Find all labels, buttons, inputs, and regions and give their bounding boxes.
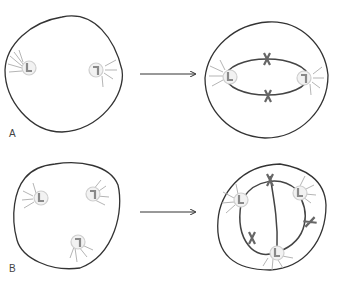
panel-b-cell-after <box>218 164 326 270</box>
centrosome-icon <box>22 61 36 75</box>
mitosis-diagram <box>0 0 341 290</box>
panel-a-cell-before <box>5 16 122 132</box>
centrosome-icon <box>34 191 48 205</box>
chromosome-icon <box>267 174 273 186</box>
panel-label-a: A <box>9 128 16 139</box>
centrosome-icon <box>86 187 100 201</box>
centrosome-icon <box>297 71 311 85</box>
chromosome-icon <box>265 90 271 102</box>
centrosome-icon <box>234 193 248 207</box>
centrosome-icon <box>71 235 85 249</box>
centrosome-icon <box>223 70 237 84</box>
spindle <box>226 59 308 95</box>
panel-a-cell-after <box>205 22 328 138</box>
panel-label-b: B <box>9 263 16 274</box>
centrosome-icon <box>270 246 284 260</box>
centrosome-icon <box>89 63 103 77</box>
panel-b-cell-before <box>14 163 120 269</box>
centrosome-icon <box>293 186 307 200</box>
chromosome-icon <box>249 232 255 244</box>
